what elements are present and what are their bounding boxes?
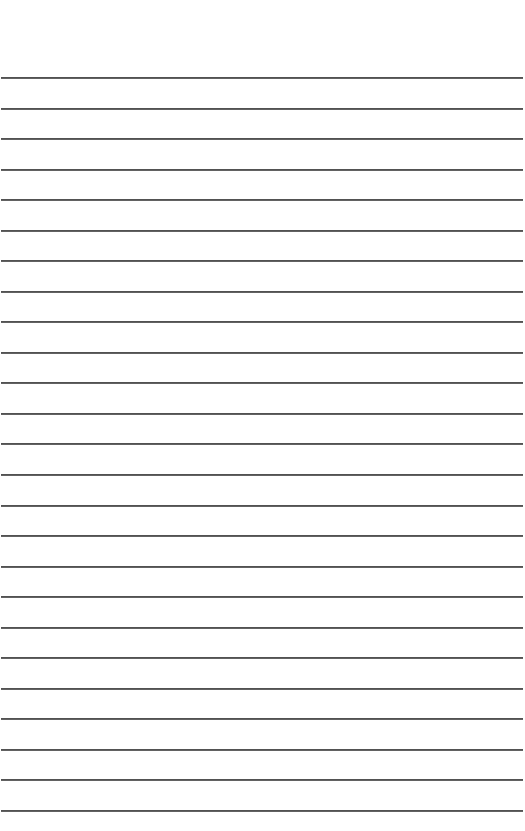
ruled-line: [1, 291, 523, 293]
ruled-line: [1, 77, 523, 79]
ruled-line: [1, 535, 523, 537]
ruled-line: [1, 138, 523, 140]
ruled-line: [1, 108, 523, 110]
ruled-line: [1, 718, 523, 720]
ruled-line: [1, 382, 523, 384]
ruled-line: [1, 810, 523, 812]
ruled-line: [1, 443, 523, 445]
ruled-line: [1, 474, 523, 476]
lined-paper-sheet: [0, 0, 525, 831]
ruled-line: [1, 566, 523, 568]
ruled-line: [1, 260, 523, 262]
ruled-line: [1, 779, 523, 781]
ruled-line: [1, 627, 523, 629]
ruled-line: [1, 505, 523, 507]
ruled-line: [1, 230, 523, 232]
ruled-line: [1, 321, 523, 323]
ruled-line: [1, 169, 523, 171]
ruled-line: [1, 199, 523, 201]
ruled-line: [1, 657, 523, 659]
ruled-line: [1, 688, 523, 690]
ruled-line: [1, 596, 523, 598]
ruled-line: [1, 352, 523, 354]
ruled-line: [1, 413, 523, 415]
ruled-line: [1, 749, 523, 751]
